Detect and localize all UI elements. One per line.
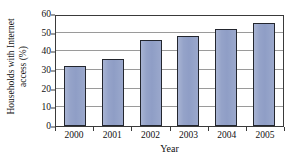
bar[interactable] — [140, 40, 162, 126]
bar[interactable] — [177, 36, 199, 126]
bar[interactable] — [102, 59, 124, 126]
bar[interactable] — [64, 66, 86, 126]
y-axis-tick-label: 40 — [25, 48, 51, 58]
x-axis-tick-mark — [284, 127, 285, 131]
y-axis-tick-label: 30 — [25, 66, 51, 76]
bars-group — [56, 16, 283, 126]
x-axis-tick-label: 2002 — [131, 129, 169, 143]
y-axis-tick-label: 60 — [25, 10, 51, 20]
y-axis-tick-label: 0 — [25, 122, 51, 132]
x-axis-title: Year — [55, 143, 284, 155]
bar-slot — [169, 16, 207, 126]
bar-slot — [207, 16, 245, 126]
y-axis-title-line-1: Households with Internet — [6, 18, 18, 114]
x-axis-tick-label: 2003 — [170, 129, 208, 143]
bar-chart-figure: Households with Internet access (%) 0102… — [0, 0, 290, 160]
y-axis-tick-label: 20 — [25, 85, 51, 95]
bar[interactable] — [215, 29, 237, 126]
x-axis-tick-label: 2004 — [208, 129, 246, 143]
y-axis-tick-label: 10 — [25, 104, 51, 114]
bar[interactable] — [253, 23, 275, 126]
bar-slot — [94, 16, 132, 126]
x-axis-tick-label: 2000 — [55, 129, 93, 143]
plot-area — [55, 15, 284, 127]
x-axis-tick-label: 2001 — [93, 129, 131, 143]
y-axis-tick-label: 50 — [25, 29, 51, 39]
x-axis-tick-label: 2005 — [246, 129, 284, 143]
bar-slot — [245, 16, 283, 126]
bar-slot — [56, 16, 94, 126]
bar-slot — [132, 16, 170, 126]
x-axis-tick-labels: 200020012002200320042005 — [55, 129, 284, 143]
